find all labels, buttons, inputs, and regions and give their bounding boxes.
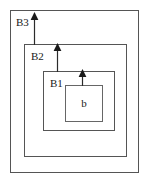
- box-b3-label: B3: [16, 17, 29, 28]
- nested-boxes-diagram: B3 B2 B1 b: [0, 0, 149, 183]
- box-b1-label: B1: [50, 78, 63, 89]
- box-b-label: b: [65, 98, 103, 109]
- box-b2-label: B2: [31, 51, 44, 62]
